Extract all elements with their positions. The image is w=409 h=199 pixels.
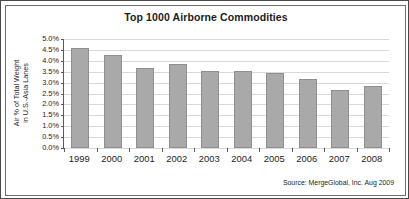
bar	[169, 64, 187, 148]
x-axis-tick-mark	[162, 148, 163, 152]
y-axis-tick-label: 2.5%	[31, 89, 59, 98]
y-axis-tick-label: 4.0%	[31, 56, 59, 65]
y-axis-tick-label: 5.0%	[31, 34, 59, 43]
plot-area	[63, 39, 389, 149]
x-axis-tick-label: 2001	[134, 153, 155, 164]
bar	[71, 48, 89, 148]
x-axis-tick-label: 2002	[166, 153, 187, 164]
x-axis-tick-mark	[97, 148, 98, 152]
page-title: Top 1000 Airborne Commodities	[61, 11, 351, 23]
x-axis-tick-mark	[194, 148, 195, 152]
y-axis-tick-mark	[61, 61, 64, 62]
chart-figure: Top 1000 Airborne Commodities Air % of T…	[0, 0, 409, 199]
y-axis-title-line1: Air % of Total Weight	[12, 60, 21, 126]
y-axis-tick-label: 2.0%	[31, 99, 59, 108]
bar	[364, 86, 382, 148]
bar	[234, 71, 252, 148]
y-axis-tick-mark	[61, 72, 64, 73]
y-axis-tick-mark	[61, 104, 64, 105]
y-axis-tick-label: 3.0%	[31, 78, 59, 87]
y-axis-tick-mark	[61, 94, 64, 95]
bar	[136, 68, 154, 148]
x-axis-tick-mark	[324, 148, 325, 152]
x-axis-tick-mark	[129, 148, 130, 152]
x-axis-tick-mark	[227, 148, 228, 152]
y-axis-tick-label: 1.5%	[31, 110, 59, 119]
gridline	[64, 39, 389, 40]
bar	[201, 71, 219, 148]
y-axis-tick-mark	[61, 50, 64, 51]
x-axis-tick-label: 1999	[69, 153, 90, 164]
y-axis-tick-mark	[61, 137, 64, 138]
y-axis-tick-label: 0.5%	[31, 132, 59, 141]
x-axis-tick-mark	[292, 148, 293, 152]
x-axis-tick-label: 2003	[199, 153, 220, 164]
y-axis-tick-label: 0.0%	[31, 143, 59, 152]
x-axis-tick-labels: 1999200020012002200320042005200620072008	[63, 153, 388, 167]
source-note: Source: MergeGlobal, Inc. Aug 2009	[283, 179, 394, 186]
x-axis-tick-label: 2004	[231, 153, 252, 164]
y-axis-tick-label: 3.5%	[31, 67, 59, 76]
y-axis-tick-label: 1.0%	[31, 121, 59, 130]
x-axis-tick-mark	[259, 148, 260, 152]
y-axis-tick-mark	[61, 126, 64, 127]
bar	[104, 55, 122, 148]
x-axis-tick-mark	[64, 148, 65, 152]
x-axis-tick-label: 2007	[329, 153, 350, 164]
x-axis-tick-label: 2000	[101, 153, 122, 164]
bar	[299, 79, 317, 148]
x-axis-tick-label: 2005	[264, 153, 285, 164]
x-axis-tick-mark	[357, 148, 358, 152]
gridline	[64, 50, 389, 51]
x-axis-tick-mark	[389, 148, 390, 152]
y-axis-tick-labels: 5.0%4.5%4.0%3.5%3.0%2.5%2.0%1.5%1.0%0.5%…	[29, 39, 59, 148]
y-axis-tick-mark	[61, 83, 64, 84]
bar	[266, 73, 284, 148]
x-axis-tick-label: 2006	[296, 153, 317, 164]
y-axis-tick-label: 4.5%	[31, 45, 59, 54]
x-axis-tick-label: 2008	[361, 153, 382, 164]
y-axis-tick-mark	[61, 39, 64, 40]
bar	[331, 90, 349, 148]
y-axis-tick-mark	[61, 115, 64, 116]
